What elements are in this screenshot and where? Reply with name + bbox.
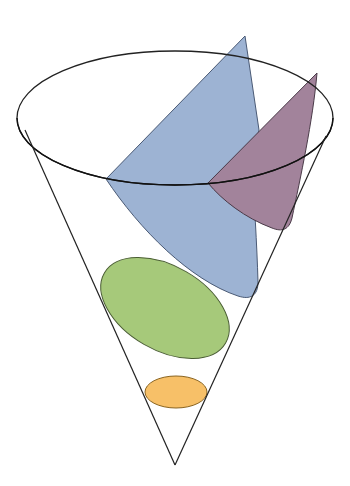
circle-section bbox=[145, 376, 207, 408]
conic-sections-diagram bbox=[0, 0, 350, 486]
